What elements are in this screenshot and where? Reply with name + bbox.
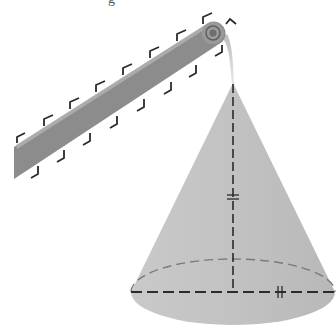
material-stream [222,34,234,84]
bottom-cleats [31,45,222,178]
nose-cleat [226,19,236,24]
cone [131,83,335,325]
pulley-icon [202,22,224,44]
belt-band [14,21,226,179]
conveyor-cone-diagram [0,0,336,327]
top-cleats [17,13,212,143]
belt-top-highlight [16,23,210,149]
